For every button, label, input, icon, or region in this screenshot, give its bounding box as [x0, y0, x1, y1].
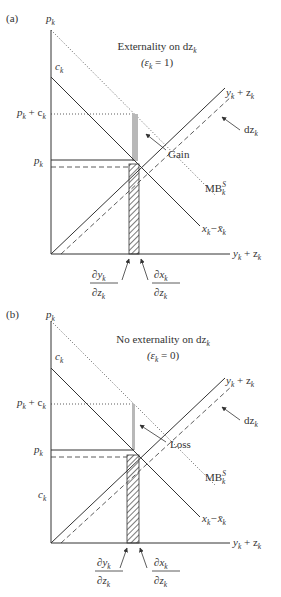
panel-b-dz-label: dzk: [244, 414, 258, 429]
panel-b-loss-label: Loss: [170, 438, 191, 450]
panel-a-title: Externality on dzk: [117, 40, 197, 55]
svg-text:∂zk: ∂zk: [97, 574, 111, 589]
panel-a-dz-label: dzk: [244, 123, 258, 138]
panel-b-loss-arrow: [140, 425, 166, 442]
panel-a-tick-ck: ck: [55, 60, 64, 75]
svg-text:∂zk: ∂zk: [92, 286, 106, 301]
panel-b-label: (b): [6, 308, 19, 321]
panel-b-supply-label: yk + zk: [225, 374, 255, 389]
panel-b-demand-label: xk−x̄k: [201, 512, 227, 527]
panel-a-gain-bar: [132, 114, 138, 161]
panel-b-tick-ck-bottom: ck: [38, 488, 47, 503]
panel-a-x-axis-label: yk + zk: [232, 247, 262, 262]
panel-a-subtitle: (εk = 1): [141, 56, 174, 71]
panel-b-mb-social-label: MBSk: [205, 469, 226, 486]
panel-a-y-axis-label: pk: [45, 12, 56, 27]
panel-b-subtitle: (εk = 0): [147, 349, 180, 364]
panel-b-dy-dz-annotation: ∂yk ∂zk: [95, 548, 127, 589]
panel-a-supply-label: yk + zk: [225, 86, 255, 101]
panel-a-dz-arrow: [222, 117, 240, 130]
panel-a-label: (a): [6, 12, 19, 25]
panel-b-tick-pk-plus-ck: pk + ck: [16, 396, 46, 411]
panel-a-gain-label: Gain: [168, 148, 190, 160]
panel-b: (b) pk yk + zk No externality on dzk (εk…: [6, 308, 262, 589]
svg-text:∂yk: ∂yk: [97, 556, 111, 571]
svg-text:∂xk: ∂xk: [154, 556, 168, 571]
panel-a-tick-pk: pk: [33, 154, 44, 169]
panel-b-x-axis-label: yk + zk: [232, 536, 262, 551]
panel-a-demand-label: xk−x̄k: [201, 222, 227, 237]
panel-a: (a) pk yk + zk Externality on dzk (εk = …: [6, 12, 262, 301]
panel-b-dx-dz-annotation: ∂xk ∂zk: [140, 548, 180, 589]
svg-text:∂xk: ∂xk: [154, 268, 168, 283]
panel-a-dy-dz-annotation: ∂yk ∂zk: [90, 259, 129, 301]
panel-b-dz-arrow: [222, 407, 240, 420]
panel-a-dx-dz-annotation: ∂xk ∂zk: [141, 259, 180, 301]
svg-text:∂zk: ∂zk: [154, 574, 168, 589]
svg-text:∂zk: ∂zk: [154, 286, 168, 301]
panel-b-y-axis-label: pk: [45, 308, 56, 323]
figure-canvas: (a) pk yk + zk Externality on dzk (εk = …: [0, 0, 281, 597]
panel-b-title: No externality on dzk: [116, 333, 210, 348]
panel-b-tick-ck-top: ck: [55, 350, 64, 365]
panel-a-gain-arrow: [146, 134, 166, 150]
svg-text:∂yk: ∂yk: [92, 268, 106, 283]
panel-a-tick-pk-plus-ck: pk + ck: [16, 106, 46, 121]
panel-b-loss-bar: [132, 404, 135, 450]
panel-a-mb-social-label: MBSk: [205, 180, 226, 197]
panel-b-hatched-bar: [127, 455, 139, 543]
panel-b-tick-pk: pk: [33, 443, 44, 458]
